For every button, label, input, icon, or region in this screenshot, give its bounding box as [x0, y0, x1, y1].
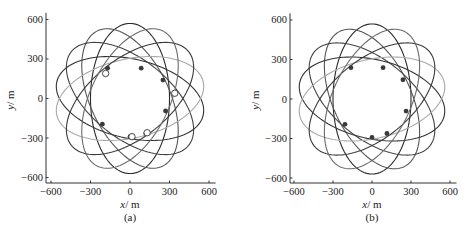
open-marker: [129, 133, 135, 139]
plot-area-b: [299, 24, 444, 174]
x-tick-label: 600: [201, 186, 217, 197]
x-tick-label: 0: [127, 186, 132, 197]
axes-a: −600−3000300600−600−3000300600: [21, 13, 217, 197]
panel-b: −600−3000300600−600−3000300600 x/ m y/ m…: [233, 0, 466, 236]
x-tick-label: −600: [283, 186, 305, 197]
filled-marker: [381, 65, 386, 70]
panel-label-a: (a): [124, 211, 137, 224]
filled-marker: [401, 77, 406, 82]
trajectory-line: [82, 29, 178, 169]
y-tick-label: −600: [265, 173, 287, 184]
y-tick-label: 300: [27, 53, 43, 64]
axes-b: −600−3000300600−600−3000300600: [265, 13, 458, 197]
panel-label-b: (b): [366, 211, 379, 224]
trajectory-line: [90, 23, 169, 173]
panel-a: −600−3000300600−600−3000300600 x/ m y/ m…: [0, 0, 233, 236]
filled-marker: [343, 122, 348, 127]
filled-marker: [100, 122, 105, 127]
y-tick-label: 0: [38, 93, 43, 104]
x-tick-label: 0: [369, 186, 374, 197]
y-tick-label: −600: [21, 172, 43, 183]
x-axis-title-a: x/ m: [119, 198, 140, 210]
filled-marker: [404, 109, 409, 114]
plot-area-a: [56, 23, 203, 173]
y-tick-label: 600: [27, 14, 43, 25]
chart-b-svg: −600−3000300600−600−3000300600 x/ m y/ m…: [233, 0, 467, 236]
x-tick-label: 600: [442, 186, 458, 197]
x-tick-label: −300: [322, 186, 344, 197]
filled-marker: [385, 131, 390, 136]
filled-marker: [349, 65, 354, 70]
y-axis-title-b: y/ m: [249, 90, 261, 111]
trajectory-line: [56, 57, 203, 141]
trajectory-line: [324, 29, 419, 169]
y-tick-label: 600: [271, 14, 287, 25]
filled-marker: [163, 109, 168, 114]
trajectory-line: [56, 57, 203, 141]
filled-marker: [139, 66, 144, 71]
y-tick-label: 300: [271, 54, 287, 65]
trajectory-line: [299, 57, 444, 141]
trajectory-line: [333, 24, 411, 174]
open-marker: [144, 130, 150, 136]
open-marker: [102, 70, 108, 76]
x-tick-label: −600: [40, 186, 62, 197]
trajectory-line: [299, 57, 444, 141]
y-axis-title-a: y/ m: [4, 90, 16, 111]
chart-a-svg: −600−3000300600−600−3000300600 x/ m y/ m…: [0, 0, 233, 236]
x-tick-label: 300: [403, 186, 419, 197]
y-tick-label: 0: [282, 94, 287, 105]
x-tick-label: 300: [162, 186, 178, 197]
trajectory-line: [82, 29, 178, 169]
x-axis-title-b: x/ m: [361, 198, 382, 210]
trajectory-line: [324, 29, 419, 169]
y-tick-label: −300: [21, 133, 43, 144]
x-tick-label: −300: [80, 186, 102, 197]
filled-marker: [370, 135, 375, 140]
filled-marker: [161, 78, 166, 83]
open-marker: [172, 90, 178, 96]
y-tick-label: −300: [265, 133, 287, 144]
